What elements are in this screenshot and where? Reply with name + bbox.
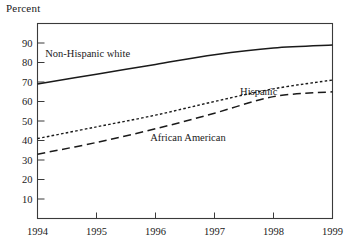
- series-label-hispanic: Hispanic: [240, 86, 278, 97]
- series-line-hispanic: [38, 80, 333, 139]
- series-label-african-american: African American: [150, 132, 226, 143]
- x-tick-label: 1998: [263, 226, 284, 237]
- y-tick-label: 30: [22, 155, 33, 166]
- x-tick-label: 1997: [204, 226, 225, 237]
- series-line-african-american: [38, 92, 333, 154]
- series-annotations-group: Non-Hispanic whiteHispanicAfrican Americ…: [45, 48, 278, 143]
- line-chart-plot: 102030405060708090 199419951996199719981…: [0, 0, 351, 249]
- y-tick-label: 90: [22, 38, 33, 49]
- y-tick-label: 50: [22, 116, 33, 127]
- y-tick-label: 60: [22, 96, 33, 107]
- x-tick-label: 1994: [27, 226, 49, 237]
- series-label-non-hispanic-white: Non-Hispanic white: [45, 48, 130, 59]
- y-tick-label: 70: [22, 77, 33, 88]
- x-tick-label: 1996: [145, 226, 166, 237]
- y-tick-label: 40: [22, 135, 33, 146]
- x-axis-ticks: 199419951996199719981999: [27, 213, 343, 237]
- chart-container: Percent 102030405060708090 1994199519961…: [0, 0, 351, 249]
- y-tick-label: 10: [22, 194, 33, 205]
- y-tick-label: 20: [22, 174, 33, 185]
- x-tick-label: 1995: [86, 226, 107, 237]
- x-tick-label: 1999: [322, 226, 343, 237]
- y-axis-ticks: 102030405060708090: [22, 38, 45, 205]
- y-tick-label: 80: [22, 57, 33, 68]
